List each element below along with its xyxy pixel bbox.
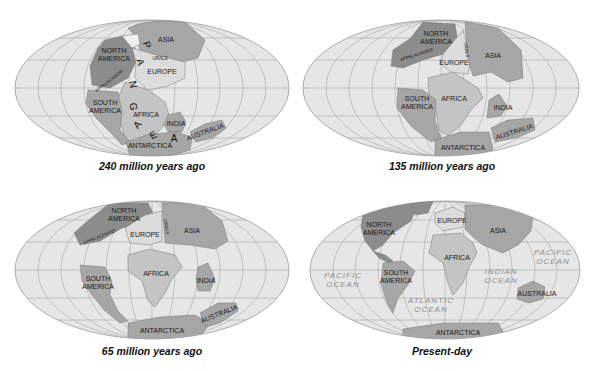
label-pacific-ocean-east-2: OCEAN: [536, 257, 569, 266]
label-south-america-2: AMERICA: [89, 107, 121, 114]
label-atlantic-ocean-2: OCEAN: [414, 305, 447, 314]
caption-65-mya: 65 million years ago: [7, 345, 297, 357]
label-south-america-1: SOUTH: [405, 95, 430, 102]
label-north-america-2: AMERICA: [420, 38, 452, 45]
label-antarctica: ANTARCTICA: [441, 144, 486, 151]
map-240-mya: ASIA NORTH AMERICA URALS EUROPE APPALACH…: [0, 0, 300, 175]
map-135-mya: NORTH AMERICA URALS APPALACHIANS ASIA EU…: [293, 0, 593, 175]
label-india: INDIA: [494, 104, 513, 111]
map-present-day-figure: NORTH AMERICA EUROPE ASIA AFRICA SOUTH A…: [293, 183, 593, 358]
label-india: INDIA: [167, 120, 186, 127]
label-north-america-1: NORTH: [367, 221, 392, 228]
label-south-america-1: SOUTH: [384, 269, 409, 276]
label-india: INDIA: [197, 277, 216, 284]
label-north-america-2: AMERICA: [108, 215, 140, 222]
map-65-mya-figure: NORTH AMERICA URALS APPALACHIANS EUROPE …: [0, 183, 300, 358]
label-asia: ASIA: [184, 227, 200, 234]
label-asia: ASIA: [158, 36, 174, 43]
label-north-america-2: AMERICA: [98, 55, 130, 62]
label-south-america-2: AMERICA: [401, 103, 433, 110]
label-europe: EUROPE: [147, 68, 177, 75]
map-135-mya-figure: NORTH AMERICA URALS APPALACHIANS ASIA EU…: [293, 0, 593, 175]
label-africa: AFRICA: [143, 270, 169, 277]
label-north-america-2: AMERICA: [363, 229, 395, 236]
label-atlantic-ocean-1: ATLANTIC: [407, 296, 454, 305]
label-indian-ocean-2: OCEAN: [484, 276, 517, 285]
label-antarctica: ANTARCTICA: [140, 327, 185, 334]
map-240-mya-figure: ASIA NORTH AMERICA URALS EUROPE APPALACH…: [0, 0, 300, 175]
label-south-america-1: SOUTH: [93, 99, 118, 106]
label-north-america-1: NORTH: [112, 207, 137, 214]
map-present-day: NORTH AMERICA EUROPE ASIA AFRICA SOUTH A…: [293, 183, 593, 358]
label-europe: EUROPE: [130, 231, 160, 238]
label-antarctica: ANTARCTICA: [436, 329, 481, 336]
label-pacific-ocean-west-1: PACIFIC: [324, 271, 362, 280]
label-asia: ASIA: [485, 52, 501, 59]
label-south-america-2: AMERICA: [82, 283, 114, 290]
label-antarctica: ANTARCTICA: [128, 142, 173, 149]
label-australia: AUSTRALIA: [518, 290, 557, 297]
svg-text:A: A: [171, 133, 178, 144]
label-africa: AFRICA: [133, 111, 159, 118]
label-urals: URALS: [152, 56, 167, 61]
label-africa: AFRICA: [444, 254, 470, 261]
label-south-america-1: SOUTH: [86, 275, 111, 282]
map-65-mya: NORTH AMERICA URALS APPALACHIANS EUROPE …: [0, 183, 300, 358]
caption-present-day: Present-day: [297, 345, 587, 357]
label-indian-ocean-1: INDIAN: [484, 267, 517, 276]
caption-240-mya: 240 million years ago: [7, 160, 297, 172]
label-south-america-2: AMERICA: [380, 277, 412, 284]
label-europe: EUROPE: [437, 217, 467, 224]
label-africa: AFRICA: [441, 95, 467, 102]
svg-text:G: G: [128, 102, 140, 111]
caption-135-mya: 135 million years ago: [297, 160, 587, 172]
label-pacific-ocean-west-2: OCEAN: [326, 280, 359, 289]
label-asia: ASIA: [490, 227, 506, 234]
label-north-america-1: NORTH: [424, 30, 449, 37]
label-europe: EUROPE: [439, 59, 469, 66]
label-pacific-ocean-east-1: PACIFIC: [534, 248, 572, 257]
label-north-america-1: NORTH: [102, 47, 127, 54]
